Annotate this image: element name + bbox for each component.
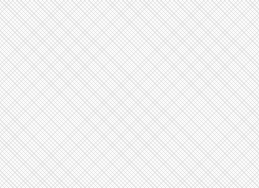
legend-row: CafeBean Starbucks	[51, 134, 202, 151]
pie-label-cafebean: 20%	[100, 66, 117, 76]
legend-swatch-icon	[51, 140, 57, 146]
legend-item-label: No-name brands	[61, 155, 129, 165]
legend-swatch-icon	[137, 140, 143, 146]
legend-item-label: CafeBean	[61, 138, 102, 148]
legend-swatch-icon	[51, 157, 57, 163]
legend-item-label: Other Brands	[147, 155, 202, 165]
legend-swatch-icon	[137, 157, 143, 163]
pie-label-no-name-brands: 36%	[49, 114, 66, 124]
legend-item-no-name-brands[interactable]: No-name brands	[51, 155, 137, 165]
pie-label-other-brands: 17%	[53, 62, 70, 72]
legend-item-starbucks[interactable]: Starbucks	[137, 138, 188, 148]
legend-item-label: Starbucks	[147, 138, 188, 148]
chart-legend: CafeBean Starbucks No-name brands Other …	[44, 132, 208, 170]
plot-area: 20% 27% 36% 17% CafeBean Starbucks	[0, 0, 259, 188]
legend-item-cafebean[interactable]: CafeBean	[51, 138, 137, 148]
legend-item-other-brands[interactable]: Other Brands	[137, 155, 202, 165]
chart-screenshot: 20% 27% 36% 17% CafeBean Starbucks	[0, 0, 259, 188]
pie-label-starbucks: 27%	[104, 111, 121, 121]
legend-row: No-name brands Other Brands	[51, 151, 202, 168]
